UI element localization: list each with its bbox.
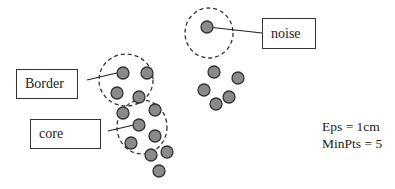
connector-noise: [208, 27, 262, 33]
data-points: [111, 21, 244, 177]
data-point: [232, 72, 244, 84]
data-point: [141, 67, 153, 79]
border-point: [117, 67, 129, 79]
data-point: [133, 91, 145, 103]
noise-label: noise: [271, 26, 301, 42]
minpts-parameter: MinPts = 5: [322, 135, 382, 152]
data-point: [111, 87, 123, 99]
core-label-box: core: [30, 119, 101, 149]
data-point: [125, 137, 137, 149]
data-point: [117, 107, 129, 119]
data-point: [149, 104, 161, 116]
noise-label-box: noise: [262, 18, 316, 49]
data-point: [149, 130, 161, 142]
connector-border: [87, 72, 121, 80]
data-point: [208, 66, 220, 78]
noise-point: [201, 21, 213, 33]
eps-parameter: Eps = 1cm: [322, 118, 380, 135]
border-label-box: Border: [16, 69, 78, 99]
data-point: [223, 91, 235, 103]
data-point: [210, 98, 222, 110]
data-point: [145, 149, 157, 161]
border-label: Border: [25, 76, 64, 92]
data-point: [153, 165, 165, 177]
core-label: core: [39, 126, 63, 142]
data-point: [161, 146, 173, 158]
core-point: [133, 119, 145, 131]
data-point: [198, 84, 210, 96]
